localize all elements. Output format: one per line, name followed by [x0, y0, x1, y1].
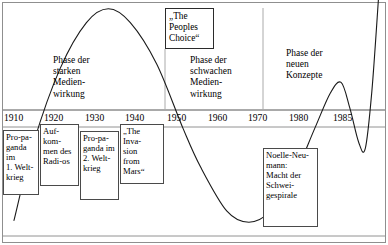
tick-label-1910: 1910 [4, 112, 23, 123]
event-box-invasion-from-mars: „The Inva- sion from Mars“ [120, 124, 164, 184]
tick-label-1970: 1970 [248, 112, 267, 123]
event-box-noelle-neumann: Noelle-Neu- mann: Macht der Schwei- gesp… [263, 148, 318, 227]
media-effects-timeline-figure: Phase der starken Medien- wirkung Phase … [0, 0, 388, 245]
tick-label-1985: 1985 [333, 112, 352, 123]
tick-label-1920: 1920 [44, 112, 63, 123]
event-box-propaganda-ww1: Pro-pa- ganda im 1. Welt- krieg [3, 130, 39, 195]
phase-label-new: Phase der neuen Konzepte [286, 48, 323, 82]
tick-label-1950: 1950 [167, 112, 186, 123]
tick-label-1980: 1980 [289, 112, 308, 123]
phase-label-weak: Phase der schwachen Medien- wirkung [190, 55, 232, 100]
peoples-choice-box: „The Peoples Choice“ [165, 8, 214, 49]
tick-label-1940: 1940 [125, 112, 144, 123]
tick-label-1930: 1930 [85, 112, 104, 123]
phase-label-strong: Phase der starken Medien- wirkung [53, 55, 90, 100]
event-box-propaganda-ww2: Pro-pa- ganda im 2. Welt- krieg [80, 131, 119, 200]
event-box-radio: Auf- kom- men des Radi-os [40, 124, 79, 186]
tick-label-1960: 1960 [208, 112, 227, 123]
